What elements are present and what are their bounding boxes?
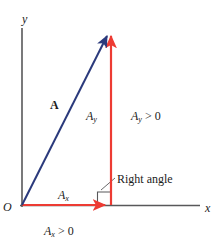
ay-subscript: y — [93, 115, 97, 124]
right-angle-marker — [98, 192, 111, 205]
ax-subscript: x — [65, 194, 69, 203]
ay-positive-relation: > 0 — [142, 109, 161, 123]
x-axis-label: x — [205, 202, 210, 214]
right-angle-leader-line — [101, 178, 115, 190]
ay-positive-annotation: Ay > 0 — [131, 110, 161, 124]
origin-label: O — [3, 201, 12, 213]
right-angle-label: Right angle — [117, 173, 173, 185]
ax-component-label: Ax — [58, 189, 69, 203]
ax-positive-annotation: Ax > 0 — [44, 225, 74, 239]
vector-a-label: A — [50, 99, 59, 111]
ay-component-label: Ay — [86, 110, 97, 124]
y-axis-label: y — [22, 13, 27, 25]
diagram-canvas — [0, 0, 221, 248]
ax-positive-relation: > 0 — [55, 224, 74, 238]
vector-components-figure: y x O A Ax Ay Ay > 0 Ax > 0 Right angle — [0, 0, 221, 248]
